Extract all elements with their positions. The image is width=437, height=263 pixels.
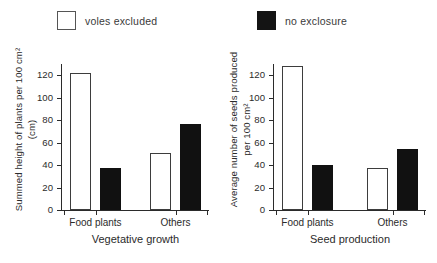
x-tick-right-0 xyxy=(308,210,309,215)
x-tick-right-edge-1 xyxy=(424,210,425,215)
x-group-label-right-1: Others xyxy=(377,217,407,228)
y-tick-left-100: 100 xyxy=(57,98,62,99)
y-tick-label-right-0: 0 xyxy=(260,204,265,215)
y-tick-label-left-100: 100 xyxy=(37,92,53,103)
y-tick-label-right-40: 40 xyxy=(254,159,265,170)
legend-label-voles-excluded: voles excluded xyxy=(85,15,157,27)
x-group-label-right-0: Food plants xyxy=(281,217,333,228)
y-tick-label-right-80: 80 xyxy=(254,114,265,125)
y-tick-right-100: 100 xyxy=(269,98,274,99)
x-axis-label-right: Seed production xyxy=(310,233,390,245)
figure-bar-charts: voles excluded no exclosure Summed heigh… xyxy=(0,0,437,263)
bar-right-others-no-exclosure xyxy=(397,149,418,210)
y-tick-label-right-60: 60 xyxy=(254,137,265,148)
y-tick-right-120: 120 xyxy=(269,75,274,76)
y-tick-label-left-0: 0 xyxy=(48,204,53,215)
y-tick-left-20: 20 xyxy=(57,188,62,189)
x-tick-left-0 xyxy=(96,210,97,215)
plot-area-right: Seed production 020406080100120Food plan… xyxy=(273,64,426,211)
legend-entry-voles-excluded: voles excluded xyxy=(57,11,157,30)
chart-legend: voles excluded no exclosure xyxy=(0,8,437,42)
panel-seed-production: Average number of seeds produced per 100… xyxy=(215,45,437,263)
y-tick-right-80: 80 xyxy=(269,120,274,121)
x-group-label-left-0: Food plants xyxy=(69,217,121,228)
bar-left-food-plants-voles-excluded xyxy=(70,73,91,210)
y-tick-label-left-40: 40 xyxy=(42,159,53,170)
y-tick-label-right-100: 100 xyxy=(249,92,265,103)
panel-vegetative-growth: Summed height of plants per 100 cm² (cm)… xyxy=(0,45,218,263)
bar-left-others-voles-excluded xyxy=(150,153,171,210)
plot-area-left: Vegetative growth 020406080100120Food pl… xyxy=(61,64,209,211)
x-tick-right-1 xyxy=(393,210,394,215)
bar-group-right xyxy=(274,64,426,210)
bar-left-others-no-exclosure xyxy=(180,124,201,210)
x-axis-label-left: Vegetative growth xyxy=(92,233,179,245)
y-tick-left-120: 120 xyxy=(57,75,62,76)
legend-swatch-filled-square xyxy=(257,11,276,30)
bar-right-others-voles-excluded xyxy=(367,168,388,210)
y-tick-label-left-80: 80 xyxy=(42,114,53,125)
y-tick-right-60: 60 xyxy=(269,143,274,144)
x-tick-left-edge-0 xyxy=(64,210,65,215)
bar-right-food-plants-no-exclosure xyxy=(312,165,333,210)
bar-group-left xyxy=(62,64,209,210)
y-tick-right-0: 0 xyxy=(269,210,274,211)
y-tick-label-right-120: 120 xyxy=(249,69,265,80)
x-tick-left-1 xyxy=(176,210,177,215)
y-tick-left-40: 40 xyxy=(57,165,62,166)
y-tick-right-20: 20 xyxy=(269,188,274,189)
x-tick-left-edge-1 xyxy=(207,210,208,215)
y-tick-label-left-60: 60 xyxy=(42,137,53,148)
y-tick-label-left-20: 20 xyxy=(42,182,53,193)
y-tick-left-0: 0 xyxy=(57,210,62,211)
y-tick-label-left-120: 120 xyxy=(37,69,53,80)
y-tick-right-40: 40 xyxy=(269,165,274,166)
legend-swatch-open-square xyxy=(57,11,76,30)
y-tick-left-60: 60 xyxy=(57,143,62,144)
y-tick-left-80: 80 xyxy=(57,120,62,121)
x-tick-right-edge-0 xyxy=(276,210,277,215)
bar-left-food-plants-no-exclosure xyxy=(100,168,121,210)
x-group-label-left-1: Others xyxy=(160,217,190,228)
legend-label-no-exclosure: no exclosure xyxy=(285,15,347,27)
y-tick-label-right-20: 20 xyxy=(254,182,265,193)
bar-right-food-plants-voles-excluded xyxy=(282,66,303,210)
legend-entry-no-exclosure: no exclosure xyxy=(257,11,347,30)
